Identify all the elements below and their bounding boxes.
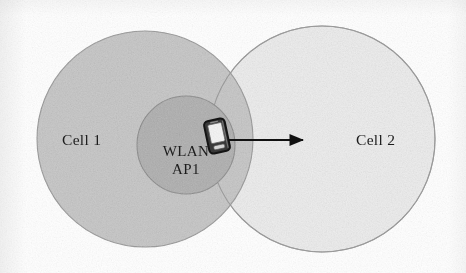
wlan-ap-label-line1: WLAN	[163, 143, 210, 159]
cell1-label: Cell 1	[62, 131, 101, 149]
wlan-ap-label: WLAN AP1	[138, 142, 234, 178]
wlan-ap-label-line2: AP1	[138, 160, 234, 178]
coverage-diagram-figure: Cell 1 WLAN AP1 Cell 2	[0, 0, 466, 273]
cell2-label: Cell 2	[356, 131, 395, 149]
